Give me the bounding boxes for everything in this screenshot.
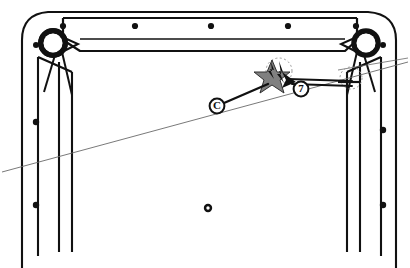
center-grommet bbox=[204, 204, 212, 212]
technical-line-drawing bbox=[0, 0, 410, 268]
rivet-dots-top-rail bbox=[60, 23, 359, 29]
callout-7-circle[interactable] bbox=[294, 82, 309, 97]
roller-top-left bbox=[41, 31, 65, 55]
leader-line-c bbox=[224, 84, 268, 103]
top-header-rail bbox=[63, 18, 357, 51]
diagram-canvas: C 7 bbox=[0, 0, 410, 268]
left-vertical-rail bbox=[38, 57, 72, 256]
roller-top-right bbox=[354, 31, 378, 55]
roller-bracket-arms bbox=[44, 36, 375, 95]
callout-c-circle[interactable] bbox=[210, 99, 225, 114]
